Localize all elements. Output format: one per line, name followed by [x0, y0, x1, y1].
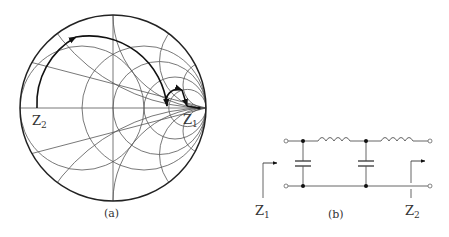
z1-point: [198, 107, 201, 110]
caption-b: (b): [328, 208, 344, 221]
caption-a: (a): [104, 207, 119, 220]
z2-label-b: Z2: [405, 203, 420, 220]
terminal-out-bottom: [428, 184, 432, 188]
terminal-out-top: [428, 139, 432, 143]
fan-line-1: [30, 62, 206, 108]
x-arc-pos-1: [113, 0, 299, 108]
terminal-in-bottom: [284, 184, 288, 188]
x-arc-pos-2: [160, 15, 253, 108]
z1-label-b: Z1: [255, 203, 270, 220]
smith-chart: Z2 Z1 (a): [0, 0, 392, 237]
x-arc-neg-2: [160, 108, 253, 201]
figure-canvas: Z2 Z1 (a): [0, 0, 449, 237]
fan-line-2: [30, 108, 206, 154]
z2-label-a: Z2: [32, 113, 47, 130]
inductor-2: [381, 138, 413, 142]
z1-label-a: Z1: [183, 112, 198, 129]
junction-2-bottom: [364, 184, 368, 188]
junction-1-top: [301, 139, 305, 143]
inductor-1: [318, 138, 350, 142]
terminal-in-top: [284, 139, 288, 143]
ladder-circuit: Z1 Z2 (b): [255, 138, 432, 222]
junction-2-top: [364, 139, 368, 143]
junction-1-bottom: [301, 184, 305, 188]
path-segment-3: [166, 89, 182, 106]
x-arc-pos-0.5: [20, 0, 392, 108]
